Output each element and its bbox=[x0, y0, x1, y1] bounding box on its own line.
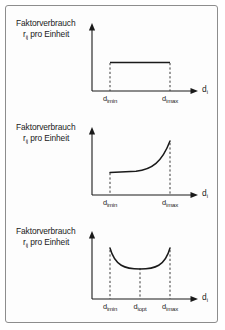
tick-label-d-i-opt-panel-3: diopt bbox=[134, 302, 147, 312]
y-axis-arrowhead bbox=[89, 127, 95, 135]
y-axis-arrowhead bbox=[89, 231, 95, 239]
x-axis-symbol-subscript: i bbox=[207, 89, 208, 95]
tick-symbol-subscript: imax bbox=[166, 202, 178, 208]
tick-label-d-i-max-panel-2: dimax bbox=[162, 198, 178, 208]
x-axis-symbol-subscript: i bbox=[207, 193, 208, 199]
panel-u-shaped: Faktorverbrauch rij pro Einheit di dimin… bbox=[6, 214, 219, 320]
y-axis-arrowhead bbox=[89, 23, 95, 31]
x-axis-arrowhead bbox=[191, 88, 199, 94]
x-axis-name-panel-1: di bbox=[202, 84, 208, 95]
tick-label-d-i-max-panel-1: dimax bbox=[162, 94, 178, 104]
tick-symbol-subscript: imin bbox=[107, 306, 117, 312]
tick-symbol-subscript: imin bbox=[107, 98, 117, 104]
tick-symbol-subscript: imax bbox=[166, 306, 178, 312]
x-axis-name-panel-3: di bbox=[202, 292, 208, 303]
tick-label-d-i-min-panel-1: dimin bbox=[103, 94, 117, 104]
x-axis-name-panel-2: di bbox=[202, 188, 208, 199]
panel-increasing: Faktorverbrauch rij pro Einheit di dimin… bbox=[6, 110, 219, 216]
tick-symbol-subscript: imin bbox=[107, 202, 117, 208]
figure-frame: Faktorverbrauch rij pro Einheit di dimin… bbox=[5, 5, 218, 323]
x-axis-arrowhead bbox=[191, 192, 199, 198]
x-axis-arrowhead bbox=[191, 296, 199, 302]
tick-symbol-subscript: imax bbox=[166, 98, 178, 104]
panel-constant: Faktorverbrauch rij pro Einheit di dimin… bbox=[6, 6, 219, 112]
tick-label-d-i-min-panel-3: dimin bbox=[103, 302, 117, 312]
x-axis-symbol-subscript: i bbox=[207, 297, 208, 303]
tick-label-d-i-min-panel-2: dimin bbox=[103, 198, 117, 208]
tick-symbol-subscript: iopt bbox=[138, 306, 147, 312]
tick-label-d-i-max-panel-3: dimax bbox=[162, 302, 178, 312]
curve-progressive-increase bbox=[110, 141, 170, 173]
curve-u-shaped bbox=[110, 248, 170, 269]
